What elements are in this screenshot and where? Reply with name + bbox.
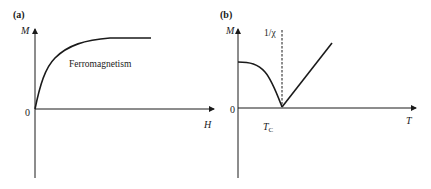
ferromagnetism-label: Ferromagnetism bbox=[69, 59, 132, 69]
y-axis-label-m: M bbox=[20, 25, 30, 36]
x-axis-label-t: T bbox=[406, 115, 413, 126]
magnetization-curve bbox=[35, 38, 151, 109]
curie-temperature-label: TC bbox=[263, 121, 274, 134]
x-axis-label-h: H bbox=[203, 119, 212, 130]
panel-a-label: (a) bbox=[13, 9, 25, 21]
figure: (a) M 0 H Ferromagnetism (b) M 0 T TC 1/… bbox=[0, 0, 431, 189]
magnetization-curve bbox=[238, 62, 282, 107]
panel-a: (a) M 0 H Ferromagnetism bbox=[13, 9, 214, 178]
inverse-susceptibility-line bbox=[282, 43, 332, 107]
panel-b: (b) M 0 T TC 1/χ bbox=[220, 9, 416, 178]
inverse-susceptibility-label: 1/χ bbox=[264, 28, 276, 38]
panel-b-label: (b) bbox=[220, 9, 232, 21]
y-axis-label-m: M bbox=[225, 25, 235, 36]
origin-label: 0 bbox=[230, 104, 235, 115]
origin-label: 0 bbox=[25, 107, 30, 118]
